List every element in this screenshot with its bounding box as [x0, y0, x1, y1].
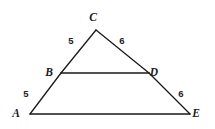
figure-canvas: A B C D E 5 6 5 6 — [0, 0, 215, 129]
segment-BA — [30, 73, 61, 114]
measure-label-BA: 5 — [23, 88, 29, 99]
vertex-label-A: A — [11, 107, 20, 119]
segment-group — [30, 30, 190, 114]
vertex-label-C: C — [89, 11, 97, 23]
segment-CB — [61, 30, 96, 73]
vertex-label-D: D — [149, 66, 159, 78]
measure-label-DE: 6 — [178, 88, 183, 99]
measure-label-CD: 6 — [119, 35, 124, 46]
vertex-label-group: A B C D E — [11, 11, 200, 119]
measure-label-CB: 5 — [68, 35, 74, 46]
geometry-figure: A B C D E 5 6 5 6 — [0, 0, 215, 129]
vertex-label-E: E — [191, 107, 200, 119]
segment-DE — [149, 73, 190, 114]
vertex-label-B: B — [44, 66, 53, 78]
